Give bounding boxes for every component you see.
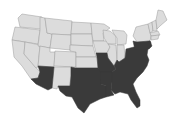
state-kansas — [76, 57, 98, 68]
state-pennsylvania-nj — [133, 41, 152, 50]
state-washington — [18, 14, 42, 29]
state-montana — [45, 18, 72, 35]
state-connecticut-ri — [151, 35, 159, 40]
state-maine — [156, 10, 167, 29]
state-colorado — [54, 51, 76, 67]
state-utah — [38, 46, 55, 67]
us-map — [0, 0, 173, 118]
state-north-dakota — [71, 22, 92, 34]
state-new-york — [133, 24, 151, 42]
state-south-dakota — [71, 34, 93, 46]
state-new-mexico — [52, 67, 71, 89]
state-wyoming — [50, 34, 71, 50]
